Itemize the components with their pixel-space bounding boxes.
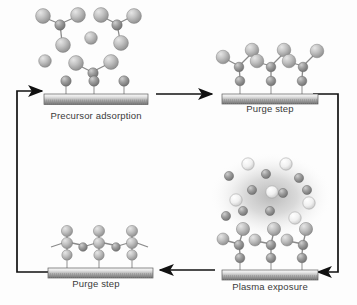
atom-small	[297, 253, 307, 263]
atom-bright	[242, 158, 254, 170]
atom-bright	[289, 212, 301, 224]
atom-large	[61, 237, 72, 248]
atom-small	[112, 243, 121, 252]
atom-large	[250, 54, 264, 68]
atom-large	[104, 55, 119, 70]
atom-small	[221, 211, 230, 220]
atom-small	[224, 171, 233, 180]
atom-large	[93, 225, 104, 236]
atom-large	[94, 8, 109, 23]
atom-small	[61, 76, 71, 86]
substrate-bar	[48, 268, 153, 278]
step-purge-bottom	[48, 225, 153, 278]
atom-large	[281, 234, 293, 246]
atom-small	[294, 173, 303, 182]
atom-small	[247, 185, 256, 194]
atom-bright	[230, 194, 242, 206]
step-plasma-exposure	[209, 152, 333, 280]
atom-small	[89, 76, 99, 86]
atom-large	[62, 250, 72, 260]
atom-small	[278, 188, 287, 197]
atom-large	[236, 222, 249, 235]
atom-large	[85, 32, 98, 45]
diagram-canvas	[0, 0, 357, 305]
step-purge-top	[216, 43, 324, 104]
atom-small	[302, 185, 311, 194]
atom-large	[39, 55, 52, 68]
substrate-bar	[222, 270, 318, 280]
atom-small	[55, 20, 65, 30]
atom-large	[71, 8, 86, 23]
atom-large	[249, 234, 261, 246]
atom-small	[266, 62, 276, 72]
atom-large	[94, 250, 104, 260]
atom-small	[266, 253, 276, 263]
atom-large	[126, 237, 137, 248]
atom-small	[298, 240, 308, 250]
atom-small	[119, 76, 129, 86]
caption-plasma-exposure: Plasma exposure	[200, 281, 340, 292]
step-precursor-adsorption	[36, 8, 148, 105]
atom-large	[69, 56, 84, 71]
substrate-bar	[44, 94, 148, 105]
atom-small	[112, 20, 122, 30]
atom-small	[266, 240, 276, 250]
atom-small	[234, 62, 244, 72]
atom-bright	[303, 197, 315, 209]
atom-small	[79, 243, 88, 252]
caption-purge-step-bottom: Purge step	[24, 278, 168, 289]
atom-small	[261, 169, 270, 178]
atom-large	[299, 222, 312, 235]
atom-large	[282, 54, 296, 68]
atom-bright	[266, 186, 278, 198]
atom-large	[267, 222, 280, 235]
atom-large	[217, 233, 229, 245]
atom-small	[234, 240, 244, 250]
atom-large	[56, 38, 71, 53]
atom-large	[36, 9, 51, 24]
caption-precursor-adsorption: Precursor adsorption	[24, 110, 168, 121]
atom-small	[298, 62, 308, 72]
atom-large	[93, 237, 104, 248]
atom-large	[310, 44, 324, 58]
atom-large	[126, 225, 137, 236]
surface-stems-bl	[67, 259, 132, 269]
atom-small	[266, 76, 276, 86]
caption-purge-step-top: Purge step	[200, 103, 340, 114]
atom-small	[297, 76, 307, 86]
atom-small	[235, 253, 245, 263]
atom-large	[216, 50, 230, 64]
atom-large	[127, 9, 142, 24]
atom-large	[61, 225, 72, 236]
atom-large	[127, 250, 137, 260]
ald-cycle-diagram: Precursor adsorption Purge step Plasma e…	[0, 0, 357, 305]
atom-small	[238, 206, 247, 215]
atom-bright	[280, 158, 292, 170]
atom-large	[114, 36, 129, 51]
atom-small	[235, 76, 245, 86]
atom-small	[265, 206, 274, 215]
